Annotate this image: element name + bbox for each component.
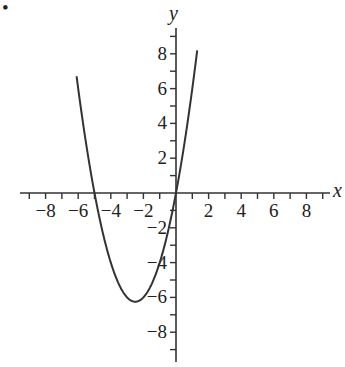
x-axis-label: x (332, 179, 342, 201)
y-tick-label: −8 (147, 321, 167, 342)
y-tick-label: 4 (158, 112, 168, 133)
bullet-marker: • (2, 0, 9, 18)
y-tick-label: −2 (147, 217, 167, 238)
x-tick-label: −8 (35, 200, 55, 221)
y-tick-label: 6 (158, 78, 168, 99)
x-tick-label: 8 (302, 200, 312, 221)
x-tick-label: 4 (236, 200, 246, 221)
x-tick-label: −4 (101, 200, 122, 221)
y-axis-label: y (167, 2, 178, 25)
parabola-curve (77, 50, 198, 301)
parabola-chart: • −8−6−4−224688642−2−4−6−8 x y (0, 0, 345, 367)
y-tick-label: 8 (158, 43, 168, 64)
x-tick-label: 2 (204, 200, 214, 221)
x-tick-label: 6 (269, 200, 279, 221)
x-tick-label: −6 (68, 200, 88, 221)
y-tick-label: 2 (158, 147, 168, 168)
